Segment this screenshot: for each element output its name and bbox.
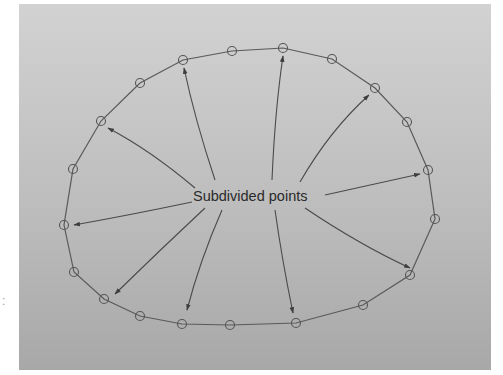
diagram-canvas: : Subdivided points [0,0,503,375]
subdivided-points-label: Subdivided points [193,188,307,204]
edge-mark: : [2,294,5,308]
figure-panel [19,4,491,370]
